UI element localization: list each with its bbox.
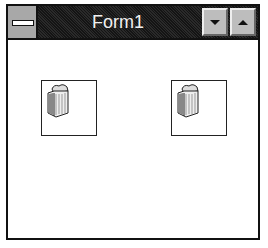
minimize-button[interactable] [202, 8, 228, 36]
maximize-arrow-icon [238, 20, 248, 25]
system-menu-icon [12, 20, 34, 26]
file-folder-stack-icon [46, 83, 74, 119]
title-bar[interactable]: Form1 [8, 6, 258, 40]
system-menu-button[interactable] [8, 6, 38, 38]
form-window: Form1 [6, 4, 260, 240]
window-title: Form1 [38, 6, 198, 38]
form-client-area [8, 40, 258, 238]
maximize-button[interactable] [230, 8, 256, 36]
minimize-arrow-icon [210, 20, 220, 25]
image-control-1[interactable] [41, 80, 97, 136]
image-control-2[interactable] [171, 80, 227, 136]
file-folder-stack-icon [176, 83, 204, 119]
